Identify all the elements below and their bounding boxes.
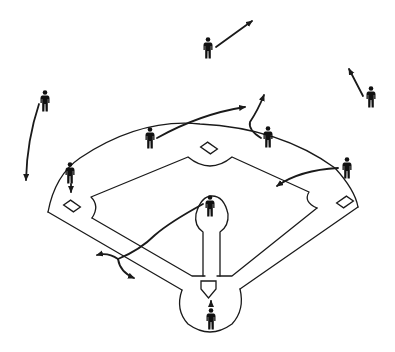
first-base [337,196,354,208]
arrow-pitcher [118,204,203,259]
player-first-baseman [343,157,352,178]
baseball-field-diagram [0,0,395,352]
player-shortstop [146,127,155,148]
arrow-ball-left [97,254,118,259]
arrow-center-fielder [216,21,252,47]
arrow-right-fielder [349,69,363,96]
second-base [201,142,218,154]
left-infield-edge [91,157,317,218]
third-base [64,200,81,212]
player-pitcher [206,195,215,216]
player-catcher [207,308,216,329]
outfield-arc [48,123,358,212]
arrow-shortstop [157,107,245,138]
player-left-fielder [41,90,50,111]
player-right-fielder [367,86,376,107]
player-center-fielder [204,37,213,58]
player-third-baseman [66,162,75,183]
arrow-first-baseman [277,168,338,186]
first-base-line-inner [217,208,317,276]
arrow-left-fielder [26,104,39,180]
left-foul-line-outer [48,212,182,290]
right-foul-line-outer [240,207,358,289]
home-plate [201,281,216,298]
arrow-ball-right [118,259,134,278]
